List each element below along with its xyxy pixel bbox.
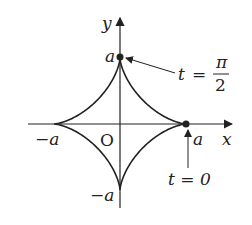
annot-pi: π — [215, 52, 228, 72]
tick-a-y: a — [105, 46, 115, 66]
origin-label: O — [100, 130, 114, 150]
annot-t0: t = 0 — [168, 169, 211, 189]
point-right — [183, 121, 190, 128]
point-top — [117, 54, 124, 61]
annot-2: 2 — [215, 75, 226, 95]
tick-neg-a-x: −a — [35, 129, 59, 149]
astroid-diagram: y x O a a −a −a t = π 2 t = 0 — [0, 0, 252, 225]
annot-t: t — [178, 64, 185, 84]
y-axis-label: y — [101, 13, 112, 33]
annot-eq: = — [192, 64, 206, 84]
tick-neg-a-y: −a — [90, 185, 114, 205]
arrow-t-pi-2 — [126, 58, 175, 73]
x-axis-label: x — [222, 129, 232, 149]
tick-a-x: a — [193, 129, 203, 149]
